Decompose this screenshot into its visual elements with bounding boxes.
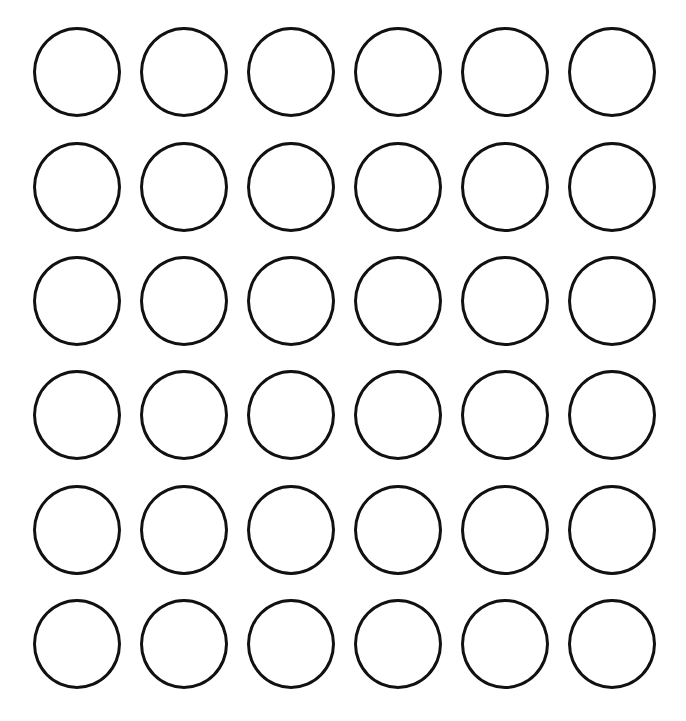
circle-r3-c1 bbox=[33, 256, 121, 346]
circle-r2-c6 bbox=[568, 142, 656, 232]
circle-r5-c4 bbox=[354, 485, 442, 575]
circle-r4-c6 bbox=[568, 370, 656, 460]
circle-r5-c5 bbox=[461, 485, 549, 575]
circle-r6-c6 bbox=[568, 599, 656, 689]
circle-r3-c6 bbox=[568, 256, 656, 346]
circle-r5-c6 bbox=[568, 485, 656, 575]
circle-r5-c1 bbox=[33, 485, 121, 575]
circle-r3-c5 bbox=[461, 256, 549, 346]
circle-r1-c2 bbox=[140, 27, 228, 117]
circle-r6-c2 bbox=[140, 599, 228, 689]
circle-r1-c5 bbox=[461, 27, 549, 117]
circle-r1-c3 bbox=[247, 27, 335, 117]
circle-r5-c3 bbox=[247, 485, 335, 575]
cut-off-title bbox=[240, 0, 440, 3]
circle-r2-c4 bbox=[354, 142, 442, 232]
circle-r2-c3 bbox=[247, 142, 335, 232]
circle-r5-c2 bbox=[140, 485, 228, 575]
worksheet-page bbox=[0, 0, 686, 721]
circle-r3-c2 bbox=[140, 256, 228, 346]
circle-r3-c3 bbox=[247, 256, 335, 346]
circle-r4-c3 bbox=[247, 370, 335, 460]
circle-r1-c6 bbox=[568, 27, 656, 117]
circle-r1-c1 bbox=[33, 27, 121, 117]
circle-r6-c5 bbox=[461, 599, 549, 689]
circle-r4-c1 bbox=[33, 370, 121, 460]
circle-r2-c2 bbox=[140, 142, 228, 232]
circle-r1-c4 bbox=[354, 27, 442, 117]
circle-r6-c4 bbox=[354, 599, 442, 689]
circle-r6-c1 bbox=[33, 599, 121, 689]
circle-r4-c5 bbox=[461, 370, 549, 460]
circle-r4-c2 bbox=[140, 370, 228, 460]
circle-r2-c1 bbox=[33, 142, 121, 232]
circle-r3-c4 bbox=[354, 256, 442, 346]
circle-r6-c3 bbox=[247, 599, 335, 689]
circle-r4-c4 bbox=[354, 370, 442, 460]
circle-r2-c5 bbox=[461, 142, 549, 232]
